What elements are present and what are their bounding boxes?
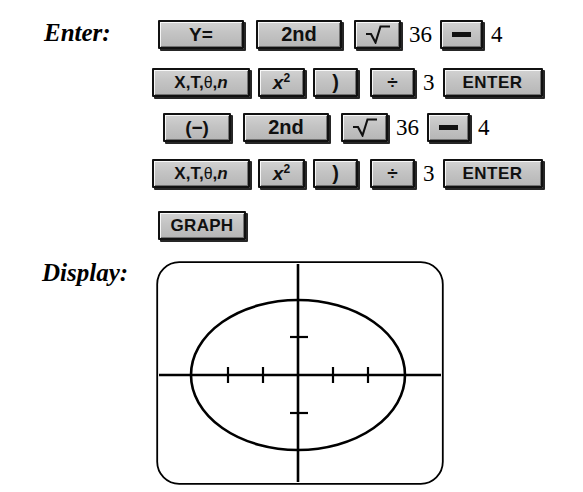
- right-paren-key[interactable]: ): [313, 68, 358, 97]
- xsq-base: x: [273, 72, 284, 93]
- graph-key[interactable]: GRAPH: [158, 211, 246, 240]
- enter-key[interactable]: ENTER: [443, 159, 543, 188]
- right-paren-key-label: ): [332, 72, 339, 92]
- keystroke-row-4: X,T,θ,n x2 ) ÷ 3 ENTER: [152, 157, 543, 189]
- keystroke-row-2: X,T,θ,n x2 ) ÷ 3 ENTER: [152, 66, 543, 98]
- keystroke-row-1: Y= 2nd 36 4: [158, 18, 503, 50]
- minus-sign-icon: [452, 32, 471, 37]
- negate-key-label: (−): [185, 118, 209, 137]
- x-t-theta-n-key[interactable]: X,T,θ,n: [152, 68, 250, 97]
- radical-icon: [366, 25, 390, 44]
- keystroke-row-3: (−) 2nd 36 4: [163, 111, 490, 143]
- xton-part-theta: θ: [204, 74, 213, 91]
- numeral-3: 3: [423, 71, 435, 94]
- xton-part-xt: X,T,: [174, 73, 203, 92]
- second-key-label: 2nd: [281, 24, 317, 44]
- enter-key-label: ENTER: [462, 74, 522, 91]
- square-root-key[interactable]: [341, 113, 388, 142]
- numeral-36: 36: [396, 116, 419, 139]
- page-root: Enter: Y= 2nd 36 4 X,T,θ,n: [0, 0, 583, 492]
- enter-key[interactable]: ENTER: [443, 68, 543, 97]
- xton-part-n: n: [217, 164, 227, 183]
- y-equals-key[interactable]: Y=: [158, 20, 244, 49]
- numeral-36: 36: [409, 23, 432, 46]
- xsq-exponent: 2: [283, 161, 290, 175]
- xsq-exponent: 2: [283, 70, 290, 84]
- enter-section-label: Enter:: [44, 19, 111, 47]
- right-paren-key[interactable]: ): [313, 159, 358, 188]
- xton-part-n: n: [217, 73, 227, 92]
- numeral-4: 4: [491, 23, 503, 46]
- xton-part-theta: θ: [204, 165, 213, 182]
- divide-key[interactable]: ÷: [370, 68, 415, 97]
- radical-icon: [353, 118, 377, 137]
- square-root-key[interactable]: [354, 20, 401, 49]
- divide-key[interactable]: ÷: [370, 159, 415, 188]
- right-paren-key-label: ): [332, 163, 339, 183]
- minus-sign-icon: [439, 125, 458, 130]
- x-t-theta-n-key-label: X,T,θ,n: [174, 165, 227, 182]
- numeral-4: 4: [478, 116, 490, 139]
- x-squared-key[interactable]: x2: [258, 68, 305, 97]
- x-squared-key-label: x2: [273, 164, 290, 183]
- numeral-3: 3: [423, 162, 435, 185]
- calculator-display-screen: [156, 261, 444, 485]
- x-t-theta-n-key[interactable]: X,T,θ,n: [152, 159, 250, 188]
- graph-key-label: GRAPH: [171, 217, 234, 234]
- xsq-base: x: [273, 163, 284, 184]
- xton-part-xt: X,T,: [174, 164, 203, 183]
- x-t-theta-n-key-label: X,T,θ,n: [174, 74, 227, 91]
- second-key[interactable]: 2nd: [256, 20, 342, 49]
- subtract-key[interactable]: [427, 113, 470, 142]
- negate-key[interactable]: (−): [163, 113, 231, 142]
- divide-key-label: ÷: [387, 73, 397, 92]
- second-key[interactable]: 2nd: [243, 113, 329, 142]
- x-squared-key[interactable]: x2: [258, 159, 305, 188]
- subtract-key[interactable]: [440, 20, 483, 49]
- y-equals-key-label: Y=: [189, 25, 213, 44]
- display-section-label: Display:: [42, 259, 128, 287]
- x-squared-key-label: x2: [273, 73, 290, 92]
- second-key-label: 2nd: [268, 117, 304, 137]
- enter-key-label: ENTER: [462, 165, 522, 182]
- divide-key-label: ÷: [387, 164, 397, 183]
- keystroke-row-5: GRAPH: [158, 209, 246, 241]
